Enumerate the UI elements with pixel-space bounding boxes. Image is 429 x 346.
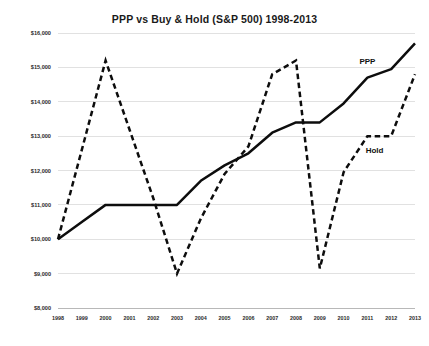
x-tick-label: 2013 (409, 315, 421, 321)
x-tick-label: 2001 (123, 315, 135, 321)
x-tick-label: 2012 (385, 315, 397, 321)
x-axis-tick-labels: 1998199920002001200220032004200520062007… (52, 315, 421, 321)
x-tick-label: 2009 (314, 315, 326, 321)
x-tick-label: 2007 (266, 315, 278, 321)
x-tick-label: 1998 (52, 315, 64, 321)
chart-figure: PPP vs Buy & Hold (S&P 500) 1998-2013 $8… (0, 0, 429, 346)
y-tick-label: $15,000 (31, 64, 51, 70)
x-tick-label: 2000 (100, 315, 112, 321)
series-label-ppp: PPP (359, 57, 376, 66)
x-tick-label: 2008 (290, 315, 302, 321)
x-tick-label: 2006 (242, 315, 254, 321)
y-tick-label: $8,000 (34, 305, 51, 311)
x-tick-label: 1999 (76, 315, 88, 321)
x-tick-label: 2010 (338, 315, 350, 321)
series-label-hold: Hold (366, 146, 384, 155)
x-tick-label: 2011 (362, 315, 374, 321)
y-tick-label: $10,000 (31, 236, 51, 242)
y-tick-label: $11,000 (31, 202, 51, 208)
gridlines-group (58, 33, 415, 308)
x-tick-label: 2002 (147, 315, 159, 321)
y-tick-label: $13,000 (31, 133, 51, 139)
series-line-hold (58, 61, 415, 274)
y-tick-label: $9,000 (34, 271, 51, 277)
y-tick-label: $12,000 (31, 168, 51, 174)
series-line-ppp (58, 43, 415, 239)
x-tick-label: 2004 (195, 315, 207, 321)
y-axis-tick-labels: $8,000$9,000$10,000$11,000$12,000$13,000… (31, 30, 51, 311)
y-tick-label: $14,000 (31, 99, 51, 105)
x-tick-label: 2005 (219, 315, 231, 321)
line-chart-plot: $8,000$9,000$10,000$11,000$12,000$13,000… (0, 0, 429, 346)
x-tick-label: 2003 (171, 315, 183, 321)
y-tick-label: $16,000 (31, 30, 51, 36)
